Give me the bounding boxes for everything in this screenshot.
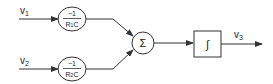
sigma-symbol: Σ bbox=[140, 37, 147, 49]
output-v3-label: v3 bbox=[234, 29, 243, 41]
input-v2-label: v2 bbox=[20, 55, 29, 67]
gain-block-2: −1 R2C bbox=[58, 57, 86, 81]
gain-1-to-summer-arrow bbox=[86, 19, 133, 36]
output-v3: v3 bbox=[221, 29, 262, 44]
summing-junction: Σ bbox=[132, 32, 154, 54]
gain-1-numerator: −1 bbox=[68, 10, 76, 17]
gain-2-denominator: R2C bbox=[66, 71, 79, 78]
input-v1-label: v1 bbox=[20, 5, 29, 17]
input-v2: v2 bbox=[19, 55, 58, 69]
gain-1-denominator: R1C bbox=[66, 21, 79, 28]
block-diagram: v1 v2 −1 R1C −1 R2C Σ ∫ v3 bbox=[0, 0, 273, 84]
integral-symbol: ∫ bbox=[205, 38, 210, 51]
integrator-block: ∫ bbox=[194, 31, 221, 57]
gain-2-to-summer-arrow bbox=[86, 50, 133, 69]
input-v1: v1 bbox=[19, 5, 58, 19]
gain-2-numerator: −1 bbox=[68, 60, 76, 67]
gain-block-1: −1 R1C bbox=[58, 7, 86, 31]
